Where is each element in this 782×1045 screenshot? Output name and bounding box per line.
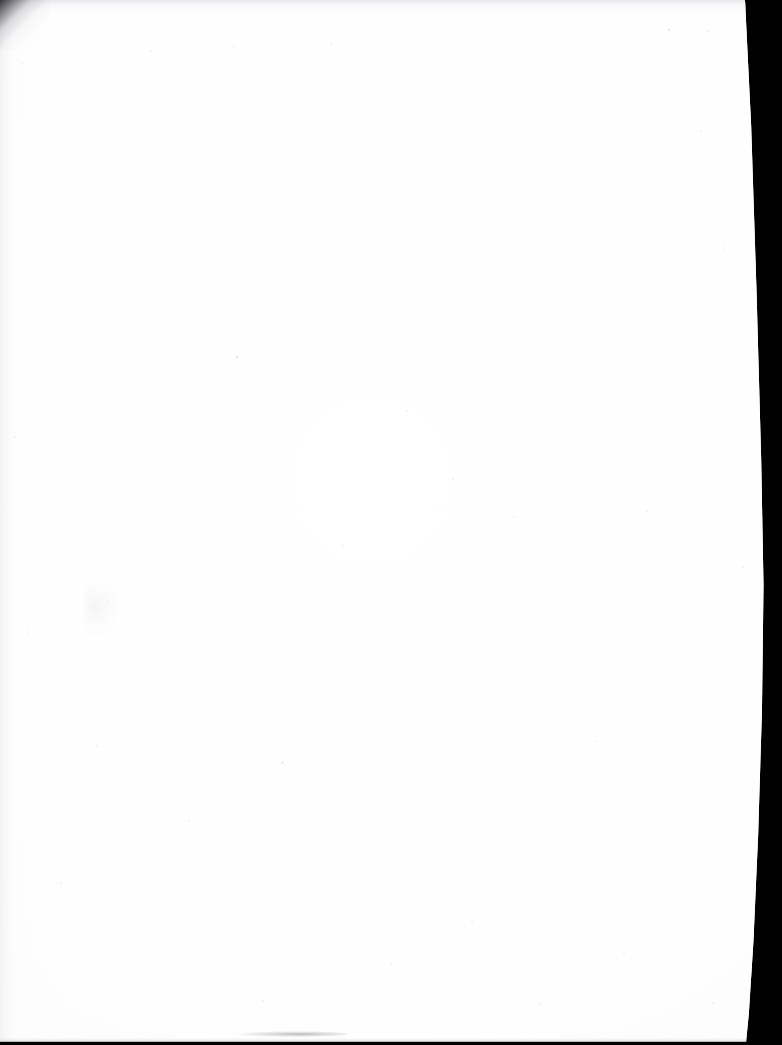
left-margin-scan-streaks <box>0 0 30 1045</box>
paper-tone-surface <box>0 0 772 1045</box>
scanned-page-canvas <box>0 0 782 1045</box>
page-sheet <box>0 0 772 1045</box>
